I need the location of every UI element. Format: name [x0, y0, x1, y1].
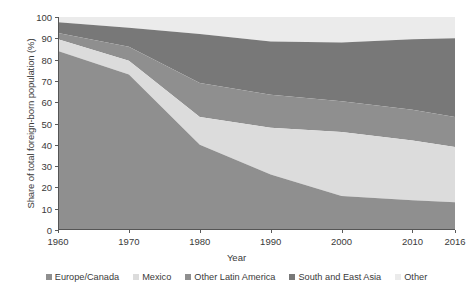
- x-tick-mark: [129, 230, 130, 233]
- area-chart: Share of total foreign-born population (…: [0, 0, 473, 296]
- plot-frame: [58, 17, 455, 230]
- x-tick-label: 2000: [322, 236, 362, 247]
- legend-label: Europe/Canada: [55, 272, 119, 282]
- legend-label: Mexico: [142, 272, 171, 282]
- x-tick-label: 1960: [38, 236, 78, 247]
- legend-item[interactable]: Other Latin America: [185, 272, 275, 282]
- x-tick-mark: [412, 230, 413, 233]
- y-tick-label: 20: [18, 182, 52, 193]
- x-tick-label: 2016: [435, 236, 473, 247]
- x-tick-label: 1980: [180, 236, 220, 247]
- x-tick-mark: [342, 230, 343, 233]
- y-tick-label: 10: [18, 203, 52, 214]
- legend-label: Other: [404, 272, 427, 282]
- x-tick-label: 1990: [251, 236, 291, 247]
- x-axis-label: Year: [0, 252, 473, 263]
- legend-swatch-icon: [46, 274, 52, 280]
- y-tick-label: 60: [18, 97, 52, 108]
- legend-item[interactable]: Mexico: [133, 272, 171, 282]
- y-tick-label: 90: [18, 33, 52, 44]
- chart-legend: Europe/CanadaMexicoOther Latin AmericaSo…: [0, 272, 473, 282]
- x-tick-mark: [58, 230, 59, 233]
- legend-item[interactable]: South and East Asia: [289, 272, 381, 282]
- legend-label: South and East Asia: [298, 272, 381, 282]
- y-tick-label: 50: [18, 118, 52, 129]
- y-tick-label: 30: [18, 161, 52, 172]
- y-tick-label: 0: [18, 225, 52, 236]
- legend-swatch-icon: [185, 274, 191, 280]
- x-tick-label: 2010: [392, 236, 432, 247]
- y-tick-label: 40: [18, 139, 52, 150]
- y-tick-label: 100: [18, 12, 52, 23]
- y-tick-label: 80: [18, 54, 52, 65]
- legend-item[interactable]: Europe/Canada: [46, 272, 119, 282]
- legend-swatch-icon: [133, 274, 139, 280]
- x-tick-mark: [200, 230, 201, 233]
- legend-swatch-icon: [289, 274, 295, 280]
- legend-label: Other Latin America: [194, 272, 275, 282]
- legend-item[interactable]: Other: [395, 272, 427, 282]
- x-tick-mark: [271, 230, 272, 233]
- x-tick-mark: [455, 230, 456, 233]
- x-tick-label: 1970: [109, 236, 149, 247]
- legend-swatch-icon: [395, 274, 401, 280]
- y-tick-label: 70: [18, 75, 52, 86]
